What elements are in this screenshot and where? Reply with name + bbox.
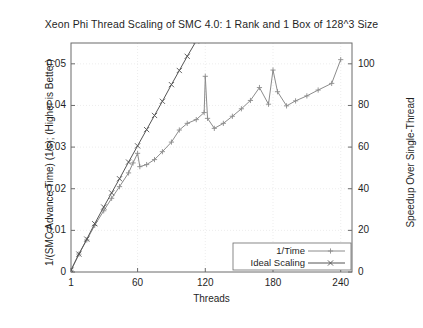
y-tick-label-right: 80: [358, 99, 398, 110]
y-tick-label-left: 0.03: [25, 141, 66, 152]
y-tick-label-left: 0.05: [25, 58, 66, 69]
y-tick-label-left: 0: [25, 266, 66, 277]
x-tick-label: 60: [118, 277, 158, 288]
tick-marks: [71, 64, 352, 272]
grid-lines: [71, 43, 352, 272]
y-tick-label-left: 0.02: [25, 183, 66, 194]
chart-figure: Xeon Phi Thread Scaling of SMC 4.0: 1 Ra…: [0, 0, 423, 328]
x-axis-label: Threads: [0, 293, 423, 304]
y-tick-label-right: 40: [358, 183, 398, 194]
x-tick-label: 240: [321, 277, 361, 288]
legend-label-one-over-time: 1/Time: [231, 245, 305, 256]
y-tick-label-right: 0: [358, 266, 398, 277]
y-axis-label-left: 1/(SMC Advance Time) (1/s); (Higher is B…: [44, 43, 55, 283]
x-tick-label: 180: [253, 277, 293, 288]
series-one-over-time: [68, 57, 343, 273]
y-tick-label-right: 100: [358, 58, 398, 69]
y-tick-label-right: 20: [358, 224, 398, 235]
y-tick-label-left: 0.04: [25, 99, 66, 110]
y-axis-label-right: Speedup Over Single-Thread: [405, 43, 416, 283]
x-tick-label: 120: [185, 277, 225, 288]
y-tick-label-left: 0.01: [25, 224, 66, 235]
y-tick-label-right: 60: [358, 141, 398, 152]
legend-label-ideal-scaling: Ideal Scaling: [231, 257, 305, 268]
x-tick-label: 1: [51, 277, 91, 288]
axis-frame: [71, 43, 352, 272]
